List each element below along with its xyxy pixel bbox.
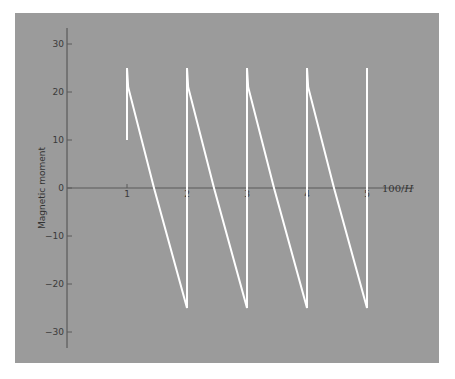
y-tick-label: 10	[53, 135, 65, 145]
y-axis-title: Magnetic moment	[37, 147, 47, 229]
y-tick-label: −30	[45, 327, 64, 337]
y-tick-label: 20	[53, 87, 65, 97]
x-tick-label: 1	[124, 189, 130, 199]
x-axis-title: 100/H	[382, 183, 413, 194]
y-tick-label: 30	[53, 39, 65, 49]
y-tick-label: −10	[45, 231, 64, 241]
y-tick-label: −20	[45, 279, 64, 289]
chart: 3020100−10−20−3012345 Magnetic moment 10…	[0, 0, 455, 379]
y-tick-label: 0	[58, 183, 64, 193]
